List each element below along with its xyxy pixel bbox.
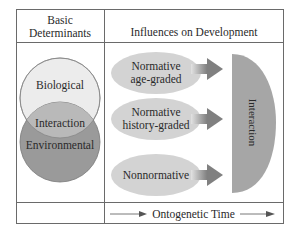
arrow-right-icon xyxy=(139,211,147,217)
label-result-interaction: Interaction xyxy=(246,78,259,168)
label-ontogenetic-time: Ontogenetic Time xyxy=(147,208,240,221)
label-line2: age-graded xyxy=(111,73,201,86)
label-normative-history-graded: Normative history-graded xyxy=(111,106,201,132)
label-interaction: Interaction xyxy=(20,117,100,130)
label-line1: Normative xyxy=(111,60,201,73)
label-normative-age-graded: Normative age-graded xyxy=(111,60,201,86)
label-biological: Biological xyxy=(20,79,100,92)
arrow-right-icon xyxy=(266,211,275,217)
label-line1: Normative xyxy=(111,106,201,119)
label-environmental: Environmental xyxy=(16,139,104,152)
label-line2: history-graded xyxy=(111,119,201,132)
label-nonnormative: Nonnormative xyxy=(111,169,201,182)
